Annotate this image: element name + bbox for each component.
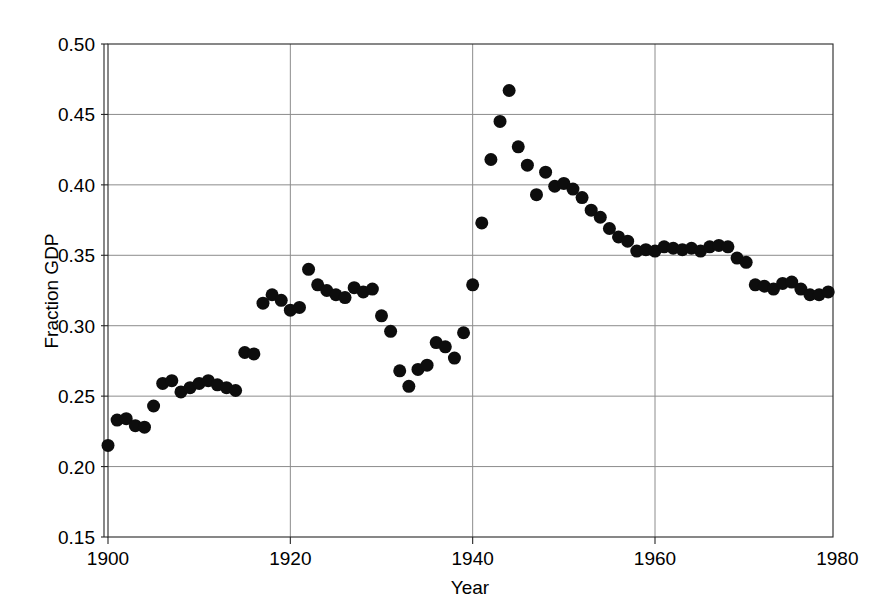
data-point — [457, 326, 470, 339]
data-point — [494, 115, 507, 128]
data-point — [475, 216, 488, 229]
y-tick-label: 0.35 — [58, 245, 95, 266]
data-point — [247, 347, 260, 360]
x-axis-tick-labels: 19001920194019601980 — [87, 548, 859, 569]
data-point — [594, 211, 607, 224]
data-point — [293, 301, 306, 314]
data-point — [530, 188, 543, 201]
x-tick-label: 1940 — [452, 548, 494, 569]
x-tick-label: 1920 — [269, 548, 311, 569]
data-point — [366, 283, 379, 296]
data-point — [484, 153, 497, 166]
data-point — [229, 384, 242, 397]
data-point — [521, 159, 534, 172]
data-points — [102, 84, 835, 452]
axis-tick-marks — [101, 44, 655, 544]
data-point — [439, 340, 452, 353]
y-tick-label: 0.30 — [58, 316, 95, 337]
y-tick-label: 0.20 — [58, 457, 95, 478]
data-point — [448, 352, 461, 365]
y-axis-tick-labels: 0.150.200.250.300.350.400.450.50 — [58, 34, 95, 548]
data-point — [539, 166, 552, 179]
data-point — [576, 191, 589, 204]
plot-frame — [104, 44, 833, 537]
data-point — [302, 263, 315, 276]
data-point — [339, 291, 352, 304]
scatter-plot: 0.150.200.250.300.350.400.450.50 1900192… — [0, 0, 870, 606]
chart-container: 0.150.200.250.300.350.400.450.50 1900192… — [0, 0, 870, 606]
y-tick-label: 0.45 — [58, 104, 95, 125]
data-point — [822, 285, 835, 298]
data-point — [375, 309, 388, 322]
y-tick-label: 0.15 — [58, 527, 95, 548]
data-point — [165, 374, 178, 387]
x-tick-label: 1960 — [634, 548, 676, 569]
y-tick-label: 0.50 — [58, 34, 95, 55]
data-point — [466, 278, 479, 291]
data-point — [503, 84, 516, 97]
data-point — [275, 294, 288, 307]
data-point — [384, 325, 397, 338]
data-point — [721, 240, 734, 253]
data-point — [147, 400, 160, 413]
data-point — [102, 439, 115, 452]
data-point — [740, 256, 753, 269]
data-point — [402, 380, 415, 393]
data-point — [512, 140, 525, 153]
y-axis-title: Fraction GDP — [41, 233, 62, 348]
data-point — [421, 359, 434, 372]
data-point — [621, 235, 634, 248]
data-point — [393, 364, 406, 377]
y-tick-label: 0.40 — [58, 175, 95, 196]
data-point — [138, 421, 151, 434]
x-axis-title: Year — [451, 577, 490, 598]
x-tick-label: 1900 — [87, 548, 129, 569]
y-tick-label: 0.25 — [58, 386, 95, 407]
x-tick-label: 1980 — [816, 548, 858, 569]
